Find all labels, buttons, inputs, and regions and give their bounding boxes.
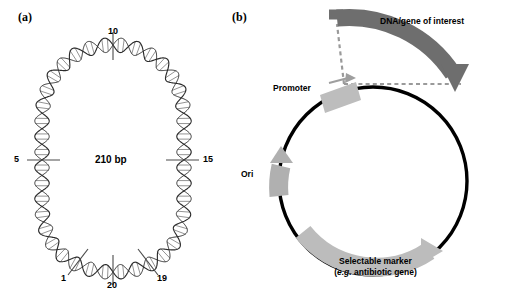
base-pair-rung bbox=[102, 39, 104, 51]
selectable-marker-label-line2: (e.g. antibiotic gene) bbox=[288, 267, 463, 278]
base-pair-rung bbox=[177, 216, 189, 218]
tick-label-1: 1 bbox=[61, 273, 66, 283]
base-pair-rung bbox=[37, 216, 49, 218]
promoter-feature bbox=[320, 73, 361, 113]
ori-feature bbox=[270, 146, 293, 196]
ori-arrowhead bbox=[270, 146, 293, 163]
tick-label-5: 5 bbox=[14, 154, 19, 164]
plasmid-map-drawing bbox=[225, 0, 522, 293]
tick-mark-19 bbox=[138, 249, 158, 275]
figure-root: (a) 210 bbox=[0, 0, 522, 293]
plasmid-vector-panel: (b) bbox=[225, 0, 522, 293]
tick-label-15: 15 bbox=[203, 154, 213, 164]
selectable-marker-label: Selectable marker (e.g. antibiotic gene) bbox=[288, 256, 463, 277]
base-pair-rung bbox=[56, 249, 65, 258]
gene-start-cap bbox=[329, 10, 343, 20]
dna-minicircle-drawing bbox=[0, 0, 261, 293]
base-pair-rung bbox=[123, 265, 124, 277]
selectable-marker-eg: e.g. bbox=[337, 267, 352, 277]
base-pair-rung bbox=[118, 266, 119, 278]
base-pair-rung bbox=[37, 107, 49, 109]
base-pair-rung bbox=[107, 39, 108, 51]
ori-label: Ori bbox=[241, 170, 253, 180]
dna-minicircle-panel: (a) 210 bbox=[0, 0, 261, 293]
selectable-marker-label-line1: Selectable marker bbox=[288, 256, 463, 267]
base-pair-rung bbox=[102, 265, 103, 277]
base-pair-rung bbox=[118, 39, 119, 51]
base-pair-rung bbox=[161, 249, 170, 258]
gene-arrowhead bbox=[441, 64, 469, 92]
promoter-label: Promoter bbox=[273, 84, 311, 94]
tick-label-19: 19 bbox=[157, 273, 167, 283]
tick-label-10: 10 bbox=[108, 26, 118, 36]
base-pair-rung bbox=[177, 107, 189, 109]
minicircle-size-label: 210 bp bbox=[95, 154, 127, 166]
base-pair-rung bbox=[36, 211, 48, 212]
selectable-marker-label-line2-rest: antibiotic gene) bbox=[352, 267, 417, 277]
base-pair-rung bbox=[123, 39, 125, 51]
base-pair-rung bbox=[108, 266, 109, 278]
dna-gene-of-interest-label: DNA/gene of interest bbox=[380, 17, 464, 27]
tick-label-20: 20 bbox=[107, 280, 117, 290]
promoter-box bbox=[320, 82, 361, 113]
promoter-arrow-head bbox=[345, 73, 356, 83]
tick-mark-1 bbox=[68, 249, 88, 275]
base-pair-rung bbox=[178, 211, 190, 212]
